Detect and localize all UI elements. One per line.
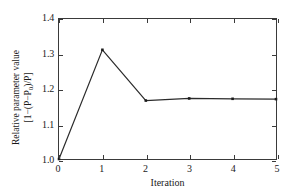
y-axis-tick — [59, 90, 63, 91]
plot-area — [58, 18, 277, 160]
x-axis-tick — [278, 19, 279, 23]
x-axis-tick-label: 1 — [99, 164, 104, 174]
y-axis-tick — [272, 161, 276, 162]
x-axis-tick — [103, 19, 104, 23]
x-axis-tick — [190, 155, 191, 159]
y-axis-tick — [272, 19, 276, 20]
x-axis-tick — [103, 155, 104, 159]
y-axis-tick — [272, 126, 276, 127]
y-axis-tick — [272, 55, 276, 56]
x-axis-tick-labels: 012345 — [58, 164, 277, 178]
x-axis-tick-label: 2 — [143, 164, 148, 174]
x-axis-tick — [147, 155, 148, 159]
x-axis-tick — [190, 19, 191, 23]
data-line — [59, 50, 276, 159]
x-axis-tick — [59, 19, 60, 23]
x-axis-tick — [147, 19, 148, 23]
y-axis-tick-label: 1.0 — [42, 155, 54, 165]
data-point-marker — [231, 98, 234, 101]
y-axis-title-line1: Relative parameter value — [11, 50, 23, 145]
data-point-marker — [188, 97, 191, 100]
x-axis-tick — [59, 155, 60, 159]
chart-figure: 1.01.11.21.31.4 012345 Iteration Relativ… — [0, 0, 289, 195]
y-axis-tick — [272, 90, 276, 91]
x-axis-tick-label: 0 — [56, 164, 61, 174]
x-axis-tick-label: 4 — [231, 164, 236, 174]
x-axis-tick — [234, 155, 235, 159]
x-axis-tick-label: 3 — [187, 164, 192, 174]
data-point-marker — [145, 99, 148, 102]
y-axis-tick — [59, 55, 63, 56]
y-axis-tick-labels: 1.01.11.21.31.4 — [30, 18, 54, 160]
y-axis-tick-label: 1.2 — [42, 84, 54, 94]
y-axis-tick-label: 1.3 — [42, 49, 54, 59]
data-point-marker — [101, 49, 104, 52]
x-axis-tick — [278, 155, 279, 159]
x-axis-title: Iteration — [58, 178, 277, 188]
y-axis-tick-label: 1.1 — [42, 120, 54, 130]
y-axis-tick — [59, 161, 63, 162]
x-axis-tick — [234, 19, 235, 23]
data-series-line — [59, 19, 276, 159]
y-axis-tick-label: 1.4 — [42, 13, 54, 23]
x-axis-tick-label: 5 — [275, 164, 280, 174]
data-point-marker — [275, 98, 278, 101]
y-axis-tick — [59, 126, 63, 127]
